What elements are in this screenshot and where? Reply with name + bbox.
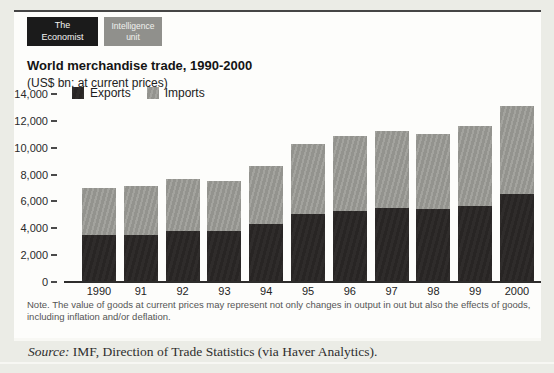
chart-title: World merchandise trade, 1990-2000 bbox=[27, 58, 252, 73]
x-tick-label-92: 92 bbox=[166, 285, 200, 297]
source-prefix: Source: bbox=[28, 344, 69, 359]
legend-swatch-exports bbox=[72, 87, 84, 99]
x-tick-label-97: 97 bbox=[375, 285, 409, 297]
imports-segment-93 bbox=[207, 181, 241, 231]
bar-91 bbox=[124, 186, 158, 281]
imports-segment-96 bbox=[333, 136, 367, 211]
y-tick-2,000: 2,000 bbox=[14, 248, 57, 262]
y-tick-label: 8,000 bbox=[20, 169, 48, 181]
imports-segment-1990 bbox=[82, 188, 116, 235]
y-tick-label: 14,000 bbox=[14, 88, 48, 100]
plot-area bbox=[64, 93, 541, 283]
imports-segment-95 bbox=[291, 144, 325, 214]
legend-item-imports: Imports bbox=[147, 86, 205, 100]
legend-label-exports: Exports bbox=[90, 86, 131, 100]
y-tick-mark bbox=[51, 200, 57, 202]
report-page: The Economist Intelligence unit World me… bbox=[0, 0, 554, 373]
bar-chart: ExportsImports 02,0004,0006,0008,00010,0… bbox=[14, 93, 541, 283]
y-tick-label: 2,000 bbox=[20, 249, 48, 261]
source-text: IMF, Direction of Trade Statistics (via … bbox=[69, 344, 377, 359]
exports-segment-94 bbox=[249, 224, 283, 281]
intelligence-unit-logo-line2: unit bbox=[126, 32, 140, 43]
x-tick-label-94: 94 bbox=[249, 285, 283, 297]
bar-94 bbox=[249, 166, 283, 281]
legend-label-imports: Imports bbox=[165, 86, 205, 100]
exports-segment-96 bbox=[333, 211, 367, 282]
y-tick-mark bbox=[51, 120, 57, 122]
bar-98 bbox=[416, 134, 450, 281]
x-tick-label-93: 93 bbox=[207, 285, 241, 297]
exports-segment-99 bbox=[458, 206, 492, 281]
x-axis: 19909192939495969798992000 bbox=[64, 285, 541, 299]
exports-segment-97 bbox=[375, 208, 409, 281]
y-tick-mark bbox=[51, 227, 57, 229]
exports-segment-2000 bbox=[500, 194, 534, 281]
footnote: Note. The value of goods at current pric… bbox=[27, 299, 533, 324]
y-tick-6,000: 6,000 bbox=[14, 194, 57, 208]
economist-logo: The Economist bbox=[27, 17, 98, 46]
bottom-separator bbox=[0, 362, 554, 364]
legend-item-exports: Exports bbox=[72, 86, 131, 100]
y-tick-label: 10,000 bbox=[14, 142, 48, 154]
exports-segment-92 bbox=[166, 231, 200, 281]
chart-legend: ExportsImports bbox=[72, 86, 205, 100]
y-tick-mark bbox=[51, 147, 57, 149]
y-tick-mark bbox=[51, 93, 57, 95]
bar-93 bbox=[207, 181, 241, 281]
exports-segment-95 bbox=[291, 214, 325, 281]
y-tick-label: 6,000 bbox=[20, 195, 48, 207]
intelligence-unit-logo-line1: Intelligence bbox=[111, 21, 154, 32]
x-tick-label-91: 91 bbox=[124, 285, 158, 297]
imports-segment-98 bbox=[416, 134, 450, 209]
intelligence-unit-logo: Intelligence unit bbox=[104, 17, 162, 46]
y-tick-label: 4,000 bbox=[20, 222, 48, 234]
exports-segment-93 bbox=[207, 231, 241, 281]
imports-segment-91 bbox=[124, 186, 158, 235]
bar-99 bbox=[458, 126, 492, 281]
economist-logo-line1: The bbox=[55, 20, 71, 31]
x-tick-label-98: 98 bbox=[416, 285, 450, 297]
y-tick-mark bbox=[51, 281, 57, 283]
x-tick-label-2000: 2000 bbox=[500, 285, 534, 297]
y-tick-mark bbox=[51, 254, 57, 256]
y-tick-14,000: 14,000 bbox=[14, 87, 57, 101]
panel-bottom-edge bbox=[14, 338, 541, 341]
y-tick-label: 0 bbox=[42, 276, 48, 288]
x-tick-label-96: 96 bbox=[333, 285, 367, 297]
bar-97 bbox=[375, 131, 409, 281]
imports-segment-97 bbox=[375, 131, 409, 208]
bar-92 bbox=[166, 179, 200, 281]
y-tick-12,000: 12,000 bbox=[14, 114, 57, 128]
imports-segment-92 bbox=[166, 179, 200, 231]
x-tick-label-95: 95 bbox=[291, 285, 325, 297]
exports-segment-1990 bbox=[82, 235, 116, 281]
exports-segment-98 bbox=[416, 209, 450, 281]
y-tick-mark bbox=[51, 174, 57, 176]
bar-1990 bbox=[82, 188, 116, 281]
imports-segment-94 bbox=[249, 166, 283, 224]
source-line: Source: IMF, Direction of Trade Statisti… bbox=[28, 344, 377, 360]
x-tick-label-99: 99 bbox=[458, 285, 492, 297]
y-tick-label: 12,000 bbox=[14, 115, 48, 127]
bar-2000 bbox=[500, 106, 534, 281]
y-tick-4,000: 4,000 bbox=[14, 221, 57, 235]
chart-panel: The Economist Intelligence unit World me… bbox=[14, 12, 541, 338]
bar-95 bbox=[291, 144, 325, 281]
y-tick-10,000: 10,000 bbox=[14, 141, 57, 155]
publisher-logos: The Economist Intelligence unit bbox=[27, 17, 162, 46]
y-tick-0: 0 bbox=[14, 275, 57, 289]
exports-segment-91 bbox=[124, 235, 158, 281]
bar-96 bbox=[333, 136, 367, 281]
legend-swatch-imports bbox=[147, 87, 159, 99]
imports-segment-2000 bbox=[500, 106, 534, 195]
y-tick-8,000: 8,000 bbox=[14, 168, 57, 182]
x-tick-label-1990: 1990 bbox=[82, 285, 116, 297]
economist-logo-line2: Economist bbox=[41, 32, 83, 43]
imports-segment-99 bbox=[458, 126, 492, 207]
